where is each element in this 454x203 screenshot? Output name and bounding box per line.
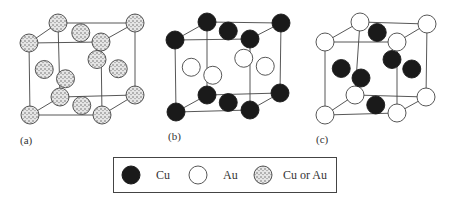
cube-edge-b (207, 22, 281, 23)
cube-edge-a (29, 42, 101, 43)
corner-atom-c (388, 33, 406, 51)
corner-atom-a (20, 34, 38, 52)
face-atom-left-a (35, 61, 53, 79)
cube-edge-c (360, 22, 427, 24)
face-atom-left-b (182, 58, 200, 76)
corner-atom-b (198, 13, 216, 31)
corner-atom-b (198, 86, 216, 104)
cube-edge-c (426, 24, 427, 97)
panel-label-b: (b) (168, 130, 181, 142)
corner-atom-c (346, 86, 364, 104)
face-atom-left-c (332, 60, 350, 78)
cube-edge-b (175, 40, 176, 112)
corner-atom-b (271, 84, 289, 102)
cube-edge-b (280, 23, 281, 93)
panel-label-a: (a) (20, 134, 32, 146)
cube-edge-b (176, 110, 250, 112)
corner-atom-c (351, 13, 369, 31)
corner-atom-b (272, 14, 290, 32)
face-atom-top-b (219, 22, 237, 40)
face-atom-front-c (352, 69, 370, 87)
face-atom-bottom-c (367, 96, 385, 114)
face-atom-back-b (235, 49, 253, 67)
corner-atom-b (166, 31, 184, 49)
face-atom-right-b (256, 57, 274, 75)
face-atom-right-c (403, 60, 421, 78)
face-atom-front-a (57, 70, 75, 88)
legend-label-cu: Cu (156, 168, 170, 183)
legend-box: Cu Au Cu or Au (113, 157, 337, 193)
corner-atom-c (388, 104, 406, 122)
legend-label-mixed: Cu or Au (283, 168, 327, 183)
corner-atom-c (418, 15, 436, 33)
corner-atom-a (92, 33, 110, 51)
corner-atom-a (126, 86, 144, 104)
corner-atom-a (49, 14, 67, 32)
face-atom-right-a (109, 60, 127, 78)
face-atom-top-c (368, 24, 386, 42)
face-atom-back-a (88, 51, 106, 69)
legend-label-au: Au (223, 168, 238, 183)
corner-atom-c (316, 106, 334, 124)
cube-edge-b (207, 93, 280, 95)
corner-atom-a (93, 106, 111, 124)
face-atom-front-b (204, 66, 222, 84)
cube-edge-c (355, 95, 426, 97)
corner-atom-b (241, 101, 259, 119)
panel-label-c: (c) (316, 133, 328, 145)
corner-atom-a (126, 14, 144, 32)
face-atom-top-a (72, 24, 90, 42)
cube-edge-b (175, 39, 250, 40)
corner-atom-c (417, 88, 435, 106)
face-atom-bottom-a (73, 97, 91, 115)
corner-atom-a (51, 88, 69, 106)
cube-edge-c (325, 113, 397, 115)
corner-atom-c (316, 33, 334, 51)
cube-edge-a (60, 95, 135, 97)
corner-atom-b (167, 103, 185, 121)
cube-edge-a (29, 43, 30, 115)
face-atom-bottom-b (219, 94, 237, 112)
corner-atom-b (241, 30, 259, 48)
face-atom-back-c (383, 51, 401, 69)
corner-atom-a (21, 106, 39, 124)
